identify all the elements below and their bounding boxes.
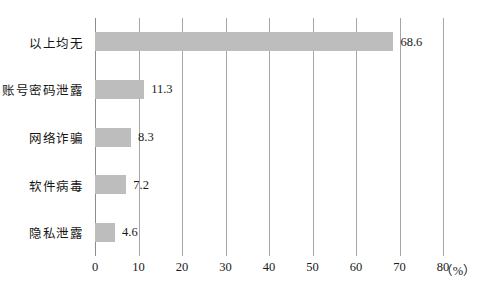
x-tick-label: 70 bbox=[393, 260, 406, 275]
bar bbox=[95, 128, 131, 147]
category-label: 隐私泄露 bbox=[29, 223, 83, 242]
bar bbox=[95, 223, 115, 242]
bar-row: 7.2 bbox=[95, 175, 443, 194]
bar bbox=[95, 80, 144, 99]
bar-value-label: 68.6 bbox=[393, 34, 422, 49]
category-axis: 以上均无 账号密码泄露 网络诈骗 软件病毒 隐私泄露 bbox=[0, 18, 83, 256]
category-label: 软件病毒 bbox=[29, 176, 83, 195]
category-label: 账号密码泄露 bbox=[2, 80, 83, 99]
bar-value-label: 11.3 bbox=[144, 82, 172, 97]
bar bbox=[95, 32, 393, 51]
bar-value-label: 4.6 bbox=[115, 225, 138, 240]
plot-area: 68.6 11.3 8.3 7.2 4.6 bbox=[95, 18, 443, 256]
gridline bbox=[443, 18, 444, 256]
bar-value-label: 8.3 bbox=[131, 130, 154, 145]
x-tick-label: 20 bbox=[176, 260, 189, 275]
x-tick-label: 30 bbox=[219, 260, 232, 275]
x-tick-label: 40 bbox=[263, 260, 276, 275]
x-tick-label: 50 bbox=[306, 260, 319, 275]
category-label: 以上均无 bbox=[29, 33, 83, 52]
bar-value-label: 7.2 bbox=[126, 177, 149, 192]
x-axis-unit-label: （%） bbox=[440, 260, 476, 279]
bar-row: 8.3 bbox=[95, 128, 443, 147]
bar-chart: 以上均无 账号密码泄露 网络诈骗 软件病毒 隐私泄露 68.6 11.3 8.3 bbox=[0, 0, 496, 292]
bar-row: 11.3 bbox=[95, 80, 443, 99]
bar-row: 4.6 bbox=[95, 223, 443, 242]
x-tick-label: 0 bbox=[92, 260, 98, 275]
bar bbox=[95, 175, 126, 194]
x-tick-label: 60 bbox=[350, 260, 363, 275]
bar-row: 68.6 bbox=[95, 32, 443, 51]
x-tick-label: 10 bbox=[132, 260, 145, 275]
category-label: 网络诈骗 bbox=[29, 128, 83, 147]
